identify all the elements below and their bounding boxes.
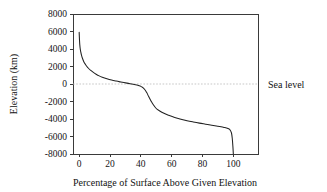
x-axis-tick-labels: 020406080100 — [77, 159, 241, 169]
y-tick-label: 8000 — [48, 9, 67, 19]
x-tick-label: 20 — [105, 159, 115, 169]
y-tick-label: 6000 — [48, 27, 67, 37]
y-tick-label: -6000 — [45, 132, 67, 142]
y-axis-tick-labels: 80006000400020000-2000-4000-6000-8000 — [45, 9, 67, 159]
y-tick-label: -4000 — [45, 114, 67, 124]
y-tick-label: 4000 — [48, 44, 67, 54]
y-axis-title: Elevation (km) — [8, 54, 20, 114]
chart-canvas: 80006000400020000-2000-4000-6000-8000 02… — [0, 0, 327, 192]
y-tick-label: 0 — [62, 79, 67, 89]
y-tick-label: 2000 — [48, 62, 67, 72]
x-tick-label: 60 — [167, 159, 177, 169]
hypsometric-curve-line — [79, 32, 233, 154]
hypsometric-curve-figure: 80006000400020000-2000-4000-6000-8000 02… — [0, 0, 327, 192]
y-tick-label: -8000 — [45, 149, 67, 159]
x-tick-label: 80 — [198, 159, 208, 169]
x-tick-label: 40 — [136, 159, 146, 169]
y-tick-label: -2000 — [45, 97, 67, 107]
sea-level-label: Sea level — [268, 79, 305, 90]
x-axis-title: Percentage of Surface Above Given Elevat… — [73, 177, 257, 188]
x-tick-label: 100 — [226, 159, 241, 169]
x-tick-label: 0 — [77, 159, 82, 169]
